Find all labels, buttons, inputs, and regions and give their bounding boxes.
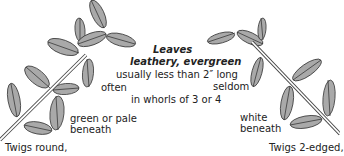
leaf-icon — [289, 113, 323, 130]
leaf-icon — [248, 56, 265, 88]
heading-subtitle: leathery, evergreen — [130, 56, 241, 67]
right-twig-caption: Twigs 2-edged, — [269, 142, 344, 153]
leaf-icon — [23, 120, 53, 137]
leaf-icon — [321, 80, 336, 117]
leaf-icon — [46, 35, 81, 59]
size-note: usually less than 2″ long — [116, 69, 238, 80]
left-underside-line1: green or pale — [70, 113, 137, 124]
label-whorls: in whorls of 3 or 4 — [131, 94, 221, 105]
leaf-icon — [105, 30, 137, 49]
label-often: often — [101, 82, 127, 93]
heading-title: Leaves — [153, 44, 192, 55]
leaf-icon — [49, 95, 66, 130]
leaf-icon — [5, 82, 23, 118]
right-underside-line2: beneath — [240, 123, 281, 134]
leaf-icon — [290, 55, 325, 84]
left-twig-caption: Twigs round, — [5, 142, 67, 153]
leaf-icon — [257, 18, 267, 41]
leaf-icon — [206, 30, 236, 47]
leaf-icon — [86, 0, 110, 30]
right-underside-line1: white — [240, 112, 267, 123]
label-seldom: seldom — [213, 81, 249, 92]
leaf-icon — [278, 85, 296, 121]
leaf-icon — [81, 59, 94, 88]
leaf-icon — [21, 62, 53, 92]
left-underside-line2: beneath — [70, 124, 111, 135]
